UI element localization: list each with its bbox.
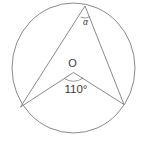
circle-geometry-figure: α O 110°: [0, 0, 143, 143]
central-angle-arc: [64, 78, 83, 81]
geometry-canvas: α O 110°: [0, 0, 143, 143]
central-angle-label: 110°: [65, 83, 88, 95]
chord-apex-right: [85, 6, 124, 105]
center-point-label: O: [68, 57, 77, 69]
inscribed-angle-label: α: [83, 17, 89, 27]
